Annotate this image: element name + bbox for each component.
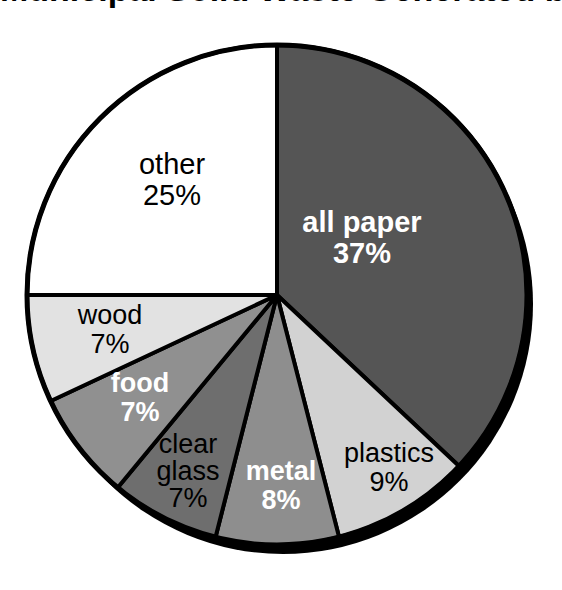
pie-svg bbox=[0, 0, 562, 590]
pie-slice-other[interactable] bbox=[27, 45, 277, 295]
pie-chart: Municipal Solid Waste Generated by Categ… bbox=[0, 0, 562, 590]
